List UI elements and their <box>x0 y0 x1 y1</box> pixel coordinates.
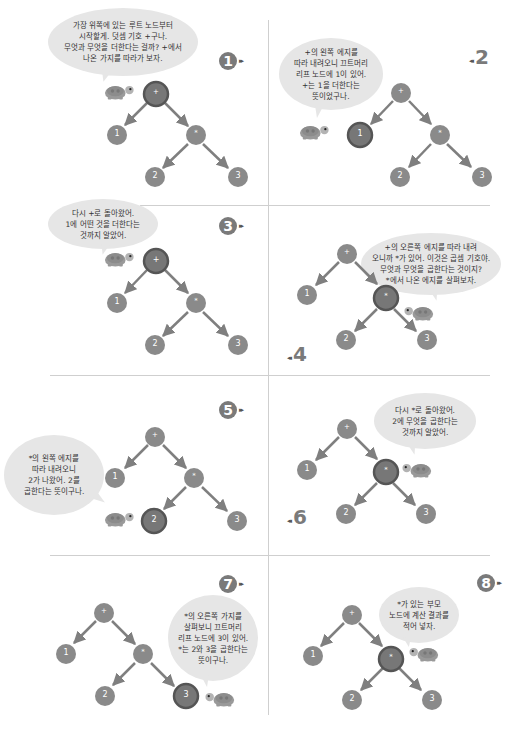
panel-step-7: *의 오른쪽 가지를 살펴보니 끄트머리 리프 노드에 3이 있어. *는 2와… <box>0 555 268 730</box>
node-root: + <box>149 431 161 439</box>
node-mult: * <box>190 297 202 305</box>
node-1: 1 <box>109 472 121 481</box>
expression-tree <box>0 375 268 555</box>
expression-tree <box>0 0 268 205</box>
node-mult: * <box>137 648 149 656</box>
node-2: 2 <box>346 694 358 703</box>
node-3: 3 <box>476 171 488 180</box>
node-root: + <box>98 607 110 615</box>
node-mult: * <box>380 292 392 300</box>
panel-step-4: +의 오른쪽 에지를 따라 내려 오니까 *가 있어. 이것은 곱셈 기호야. … <box>269 205 521 375</box>
node-root: + <box>341 248 353 256</box>
node-mult: * <box>188 472 200 480</box>
node-root: + <box>150 88 162 96</box>
node-1: 1 <box>307 650 319 659</box>
node-2: 2 <box>149 339 161 348</box>
node-3: 3 <box>421 334 433 343</box>
node-mult: * <box>190 129 202 137</box>
panel-step-1: 가장 위쪽에 있는 루트 노드부터 시작할게. 덧셈 기호 +구나. 무엇과 무… <box>0 0 268 205</box>
node-root: + <box>395 87 407 95</box>
node-mult: * <box>385 653 397 661</box>
node-1: 1 <box>301 289 313 298</box>
node-1: 1 <box>111 129 123 138</box>
node-2: 2 <box>340 508 352 517</box>
node-3: 3 <box>426 694 438 703</box>
panel-step-3: 다시 +로 돌아왔어. 1에 어떤 것을 더한다는 것까지 알았어. 3 ▸▸ … <box>0 195 268 375</box>
node-1: 1 <box>111 297 123 306</box>
panel-step-6: 다시 *로 돌아왔어. 2에 무엇을 곱한다는 것까지 알았어. 6 ◂◂ + … <box>269 375 521 555</box>
node-1: 1 <box>301 464 313 473</box>
panel-step-5: *의 왼쪽 에지를 따라 내려오니 2가 나왔어. 2를 곱한다는 뜻이구나. … <box>0 375 268 555</box>
expression-tree <box>269 555 521 730</box>
node-2: 2 <box>340 334 352 343</box>
node-1: 1 <box>354 129 366 138</box>
node-3: 3 <box>420 508 432 517</box>
node-2: 2 <box>149 171 161 180</box>
node-2: 2 <box>394 171 406 180</box>
node-3: 3 <box>231 515 243 524</box>
node-2: 2 <box>99 690 111 699</box>
node-root: + <box>341 423 353 431</box>
node-2: 2 <box>148 515 160 524</box>
node-3: 3 <box>232 339 244 348</box>
node-3: 3 <box>180 690 192 699</box>
panel-step-8: *가 있는 부모 노드에 계산 결과를 적어 넣자. 8 ▸▸ + 1 * 2 … <box>269 555 521 730</box>
node-root: + <box>346 609 358 617</box>
panel-step-2: +의 왼쪽 에지를 따라 내려오니 끄트머리 리프 노드에 1이 있어. +는 … <box>269 0 521 205</box>
node-mult: * <box>380 466 392 474</box>
expression-tree <box>0 555 268 730</box>
expression-tree <box>0 195 268 375</box>
node-3: 3 <box>232 171 244 180</box>
node-1: 1 <box>60 648 72 657</box>
node-root: + <box>150 255 162 264</box>
node-mult: * <box>434 129 446 137</box>
